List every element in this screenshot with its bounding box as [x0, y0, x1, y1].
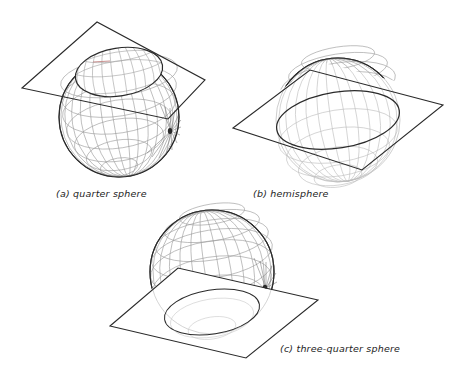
- panel-b-hemisphere: [233, 41, 443, 191]
- panel-a-quarter-sphere: [22, 22, 205, 185]
- caption-three-quarter-sphere: (c) three-quarter sphere: [280, 343, 400, 354]
- sphere-b-lower: [270, 50, 406, 191]
- caption-hemisphere: (b) hemisphere: [253, 188, 329, 199]
- panel-c-three-quarter-sphere: [110, 199, 318, 358]
- figure-illustration: (a) quarter sphere (b) hemisphere (c) th…: [0, 0, 471, 390]
- caption-quarter-sphere: (a) quarter sphere: [56, 188, 147, 199]
